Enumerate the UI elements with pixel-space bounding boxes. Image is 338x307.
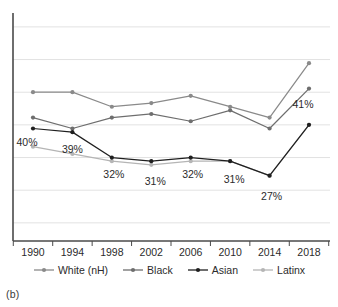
data-point <box>267 174 271 178</box>
legend-item-black[interactable]: Black <box>122 265 173 276</box>
figure-caption: (b) <box>6 288 19 300</box>
line-chart-plot <box>0 0 338 307</box>
legend-item-white-nh[interactable]: White (nH) <box>33 265 108 276</box>
legend-label: Latinx <box>277 265 305 276</box>
data-point <box>110 155 114 159</box>
legend-marker-icon <box>187 265 209 275</box>
figure-panel-b: 19901994199820022006201020142018 40%39%3… <box>0 0 338 307</box>
data-label-1994: 39% <box>62 143 83 155</box>
x-tick-label-1994: 1994 <box>61 246 84 258</box>
data-point <box>31 90 35 94</box>
data-point <box>189 119 193 123</box>
data-point <box>307 61 311 65</box>
series-line <box>33 89 309 129</box>
data-point <box>307 123 311 127</box>
series-white-nh <box>31 61 311 120</box>
data-point <box>228 159 232 163</box>
legend-item-latinx[interactable]: Latinx <box>252 265 305 276</box>
legend-label: White (nH) <box>58 265 108 276</box>
x-tick-label-2002: 2002 <box>140 246 163 258</box>
data-point <box>149 163 153 167</box>
series-line <box>33 63 309 117</box>
legend-marker-icon <box>33 265 55 275</box>
data-label-2002: 31% <box>145 175 166 187</box>
data-label-2010: 31% <box>224 173 245 185</box>
x-tick-label-2010: 2010 <box>218 246 241 258</box>
legend-label: Asian <box>212 265 238 276</box>
legend-item-asian[interactable]: Asian <box>187 265 238 276</box>
data-point <box>228 105 232 109</box>
x-tick-label-2006: 2006 <box>179 246 202 258</box>
data-point <box>267 126 271 130</box>
x-tick-label-1990: 1990 <box>21 246 44 258</box>
legend-marker-icon <box>252 265 274 275</box>
data-point <box>149 101 153 105</box>
data-point <box>70 126 74 130</box>
x-tick-label-1998: 1998 <box>100 246 123 258</box>
data-point <box>70 130 74 134</box>
data-point <box>189 155 193 159</box>
x-tick-label-2018: 2018 <box>297 246 320 258</box>
legend-marker-icon <box>122 265 144 275</box>
data-point <box>31 116 35 120</box>
data-label-2018: 41% <box>292 98 313 110</box>
data-point <box>267 116 271 120</box>
data-point <box>307 86 311 90</box>
data-point <box>110 116 114 120</box>
data-point <box>110 159 114 163</box>
data-point <box>189 159 193 163</box>
data-label-2006: 32% <box>182 168 203 180</box>
chart-legend: White (nH)BlackAsianLatinx <box>0 265 338 276</box>
data-label-1998: 32% <box>103 168 124 180</box>
data-label-1990: 40% <box>16 136 37 148</box>
data-label-2014: 27% <box>261 190 282 202</box>
data-point <box>70 90 74 94</box>
data-point <box>31 126 35 130</box>
data-point <box>189 94 193 98</box>
x-tick-label-2014: 2014 <box>258 246 281 258</box>
data-point <box>110 105 114 109</box>
data-point <box>149 112 153 116</box>
data-point <box>228 108 232 112</box>
data-point <box>149 159 153 163</box>
legend-label: Black <box>147 265 173 276</box>
